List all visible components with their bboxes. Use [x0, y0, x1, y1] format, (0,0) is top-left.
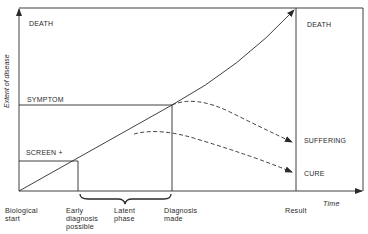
level-screen-label: SCREEN + [26, 149, 63, 157]
suffering-dashed-curve [172, 101, 292, 142]
time-label: Time [323, 200, 340, 208]
early-diagnosis-label: Early diagnosis possible [66, 207, 98, 231]
latent-phase-label: Latent phase [114, 207, 135, 223]
outcome-cure-label: CURE [304, 170, 325, 178]
biological-start-label: Biological start [5, 207, 38, 223]
outcome-death-label: DEATH [307, 21, 331, 29]
latent-phase-brace [80, 194, 171, 204]
latent-phase-line2: phase [114, 215, 135, 223]
outcome-suffering-label: SUFFERING [304, 137, 346, 145]
y-axis-label: Extent of disease [3, 54, 10, 108]
cure-dashed-curve [134, 132, 292, 172]
disease-progression-diagram [0, 0, 368, 234]
early-diagnosis-line3: possible [66, 223, 98, 231]
diagnosis-made-label: Diagnosis made [164, 207, 197, 223]
level-symptom-label: SYMPTOM [27, 96, 64, 104]
level-death-label: DEATH [29, 20, 53, 28]
biological-start-line2: start [5, 215, 38, 223]
result-label: Result [285, 207, 307, 215]
diagnosis-made-line2: made [164, 215, 197, 223]
